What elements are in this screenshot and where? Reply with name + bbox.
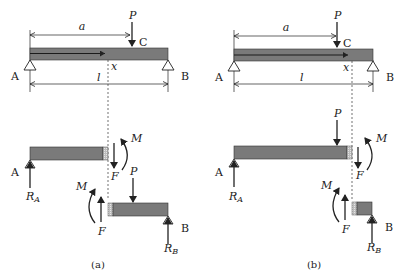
- label-F: F: [355, 169, 364, 182]
- moment-M-arrow: [365, 138, 372, 170]
- label-RB: RB: [163, 242, 178, 256]
- label-M: M: [130, 132, 143, 145]
- left-segment: [30, 147, 103, 160]
- left-segment-fbd-b: P A RA F M: [214, 107, 388, 204]
- label-A: A: [214, 71, 224, 84]
- beam: [30, 48, 168, 60]
- caption-b: (b): [307, 259, 321, 270]
- label-P: P: [128, 9, 137, 22]
- label-F: F: [341, 223, 350, 236]
- label-B: B: [181, 222, 189, 235]
- pin-support-A: [24, 60, 36, 70]
- moment-M-arrow: [121, 139, 127, 170]
- right-segment: [113, 203, 168, 216]
- label-C: C: [139, 36, 147, 49]
- pin-support-B: [162, 60, 174, 70]
- right-segment-fbd-b: B RB F M: [320, 179, 393, 255]
- label-A: A: [10, 70, 20, 83]
- label-F: F: [110, 170, 119, 183]
- label-x: x: [111, 60, 118, 73]
- label-B: B: [386, 71, 394, 84]
- pin-support-A: [228, 61, 240, 71]
- full-beam-a: a P C x A B l: [10, 9, 189, 200]
- label-RA: RA: [228, 190, 243, 204]
- full-beam-b: a P C x A B l: [214, 9, 394, 200]
- pin-support-B: [367, 61, 379, 71]
- label-B: B: [181, 70, 189, 83]
- label-x: x: [343, 61, 350, 74]
- right-segment: [357, 202, 372, 215]
- left-segment: [234, 146, 347, 159]
- left-segment-fbd-a: A RA F M: [10, 132, 143, 204]
- label-M: M: [375, 132, 388, 145]
- label-l: l: [97, 71, 101, 84]
- cut-face: [103, 147, 108, 160]
- label-l: l: [300, 71, 304, 84]
- cut-face: [352, 202, 357, 215]
- label-RA: RA: [25, 190, 40, 204]
- label-C: C: [343, 37, 351, 50]
- label-a: a: [79, 20, 86, 33]
- cut-face: [108, 203, 113, 216]
- label-RB: RB: [366, 241, 381, 255]
- label-P: P: [129, 165, 138, 178]
- label-F: F: [97, 225, 106, 238]
- beam-free-body-diagram: a P C x A B l A RA F M: [0, 0, 402, 279]
- panel-a: a P C x A B l A RA F M: [10, 9, 189, 270]
- label-B: B: [385, 221, 393, 234]
- label-A: A: [10, 166, 20, 179]
- label-a: a: [283, 21, 290, 34]
- panel-b: a P C x A B l P A RA F M: [214, 9, 394, 270]
- moment-M-arrow: [333, 188, 339, 222]
- label-M: M: [320, 179, 333, 192]
- right-segment-fbd-a: P B RB F M: [75, 165, 189, 256]
- label-P: P: [333, 107, 342, 120]
- label-P: P: [333, 9, 342, 22]
- label-M: M: [75, 180, 88, 193]
- label-A: A: [214, 166, 224, 179]
- caption-a: (a): [91, 259, 105, 270]
- cut-face: [347, 146, 352, 159]
- moment-M-arrow: [89, 189, 95, 223]
